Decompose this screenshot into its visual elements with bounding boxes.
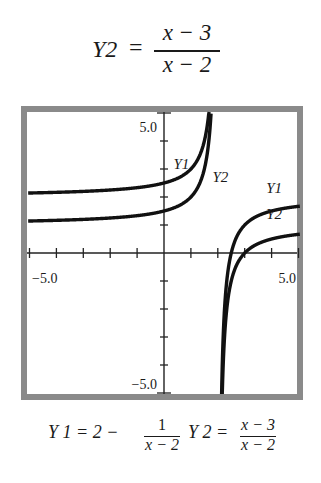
curve-label-y2: Y2 bbox=[212, 169, 228, 185]
x-max-label: 5.0 bbox=[279, 271, 297, 286]
curve-label-y1: Y1 bbox=[266, 180, 282, 196]
y-min-label: −5.0 bbox=[132, 377, 157, 392]
caption-y2-numerator: x − 3 bbox=[238, 416, 278, 434]
curve-label-y2: Y2 bbox=[266, 206, 282, 222]
axes: −5.05.05.0−5.0 bbox=[27, 112, 299, 394]
caption-y1-lhs: Y 1 = 2 − bbox=[48, 422, 118, 442]
x-min-label: −5.0 bbox=[32, 271, 57, 286]
caption-y1-numerator: 1 bbox=[142, 416, 182, 434]
caption-y1: Y 1 = 2 − 1 x − 2 bbox=[48, 422, 118, 443]
caption: Y 1 = 2 − 1 x − 2 Y 2 = x − 3 x − 2 bbox=[0, 418, 321, 458]
curve-label-y1: Y1 bbox=[173, 156, 189, 172]
y-max-label: 5.0 bbox=[140, 120, 158, 135]
labels: Y1Y1Y2Y2 bbox=[173, 156, 282, 222]
caption-y2-lhs: Y 2 = bbox=[188, 422, 228, 442]
plot-area: −5.05.05.0−5.0 Y1Y1Y2Y2 bbox=[0, 0, 321, 483]
caption-y2-denominator: x − 2 bbox=[238, 436, 278, 454]
caption-y1-denominator: x − 2 bbox=[142, 436, 182, 454]
caption-y2: Y 2 = x − 3 x − 2 bbox=[188, 422, 228, 443]
